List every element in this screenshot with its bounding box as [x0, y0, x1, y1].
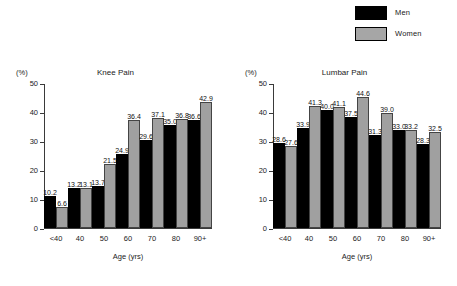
x-axis-line	[273, 228, 441, 229]
bar-women: 39.0	[381, 113, 393, 228]
y-tick	[269, 113, 273, 114]
bar-value-label: 28.3	[416, 137, 430, 144]
y-tick-label: 50	[245, 79, 267, 88]
legend-swatch-men	[355, 6, 387, 20]
y-tick	[269, 171, 273, 172]
bar-women: 36.8	[176, 119, 188, 228]
bar-value-label: 44.6	[356, 90, 370, 97]
bar-value-label: 13.7	[91, 179, 105, 186]
x-tick-label: 60	[345, 234, 369, 243]
chart-title-lumbar-pain: Lumbar Pain	[237, 68, 452, 77]
y-tick-label: 0	[245, 224, 267, 233]
x-tick-label: 60	[116, 234, 140, 243]
x-tick-label: 50	[321, 234, 345, 243]
bar-women: 41.3	[309, 106, 321, 228]
bar-value-label: 32.5	[428, 125, 442, 132]
y-tick-label: 50	[16, 79, 38, 88]
bar-women: 33.2	[405, 130, 417, 228]
x-tick-labels-lumbar-pain: <40405060708090+	[273, 234, 441, 243]
bar-group: 31.339.0	[369, 84, 393, 228]
x-tick-label: 80	[164, 234, 188, 243]
y-tick-label: 20	[245, 166, 267, 175]
bar-women: 13.1	[80, 188, 92, 228]
legend-swatch-women	[355, 27, 387, 41]
x-tick-label: 70	[140, 234, 164, 243]
x-tick-label: <40	[273, 234, 297, 243]
bar-value-label: 29.6	[139, 133, 153, 140]
x-tick-label: 50	[92, 234, 116, 243]
bar-value-label: 42.9	[199, 95, 213, 102]
bar-value-label: 27.6	[284, 139, 298, 146]
bar-men: 28.6	[273, 143, 285, 228]
bar-women: 27.6	[285, 146, 297, 228]
bar-women: 41.1	[333, 107, 345, 228]
y-tick	[40, 113, 44, 114]
bar-groups-lumbar-pain: 28.627.633.941.340.041.137.544.631.339.0…	[273, 84, 441, 228]
bar-group: 24.936.4	[116, 84, 140, 228]
bar-group: 13.213.1	[68, 84, 92, 228]
bar-men: 40.0	[321, 110, 333, 228]
bar-women: 6.6	[56, 207, 68, 228]
bar-group: 10.26.6	[44, 84, 68, 228]
bar-group: 40.041.1	[321, 84, 345, 228]
bar-value-label: 36.6	[187, 113, 201, 120]
plot-area-knee-pain: 10.26.613.213.113.721.524.936.429.637.13…	[44, 84, 212, 229]
bar-group: 33.033.2	[393, 84, 417, 228]
bar-women: 36.4	[128, 120, 140, 228]
bar-men: 36.6	[188, 120, 200, 228]
bar-value-label: 41.1	[332, 100, 346, 107]
y-tick-label: 10	[245, 195, 267, 204]
legend-label-men: Men	[395, 8, 410, 17]
bar-group: 33.941.3	[297, 84, 321, 228]
y-tick	[40, 142, 44, 143]
bar-value-label: 6.6	[57, 200, 67, 207]
x-tick-label: <40	[44, 234, 68, 243]
bar-value-label: 37.5	[344, 110, 358, 117]
x-tick-label: 40	[68, 234, 92, 243]
y-tick-label: 10	[16, 195, 38, 204]
y-tick	[40, 84, 44, 85]
x-axis-title-knee: Age (yrs)	[44, 252, 212, 261]
legend-label-women: Women	[395, 29, 422, 38]
plot-area-lumbar-pain: 28.627.633.941.340.041.137.544.631.339.0…	[273, 84, 441, 229]
bar-value-label: 21.5	[103, 157, 117, 164]
bar-group: 13.721.5	[92, 84, 116, 228]
bar-group: 29.637.1	[140, 84, 164, 228]
y-tick-label: 40	[16, 108, 38, 117]
bar-value-label: 10.2	[43, 189, 57, 196]
bar-group: 36.642.9	[188, 84, 212, 228]
bar-men: 33.0	[393, 130, 405, 228]
bar-value-label: 33.2	[404, 123, 418, 130]
bar-men: 31.3	[369, 135, 381, 228]
y-tick	[269, 142, 273, 143]
bar-women: 21.5	[104, 164, 116, 228]
x-axis-line	[44, 228, 212, 229]
bar-men: 37.5	[345, 117, 357, 228]
bar-value-label: 33.9	[296, 121, 310, 128]
bar-value-label: 36.4	[127, 113, 141, 120]
x-tick-label: 90+	[188, 234, 212, 243]
legend-item-men: Men	[355, 6, 451, 19]
bar-groups-knee-pain: 10.26.613.213.113.721.524.936.429.637.13…	[44, 84, 212, 228]
bar-women: 32.5	[429, 132, 441, 228]
y-tick-label: 30	[16, 137, 38, 146]
bar-men: 33.9	[297, 128, 309, 228]
bar-value-label: 39.0	[380, 106, 394, 113]
bar-women: 42.9	[200, 102, 212, 228]
bar-men: 35.0	[164, 125, 176, 229]
bar-men: 28.3	[417, 144, 429, 228]
y-tick-label: 40	[245, 108, 267, 117]
y-tick	[269, 84, 273, 85]
bar-women: 44.6	[357, 97, 369, 228]
y-tick-label: 20	[16, 166, 38, 175]
chart-panel-lumbar-pain: (%) Lumbar Pain 28.627.633.941.340.041.1…	[237, 62, 452, 286]
x-tick-label: 80	[393, 234, 417, 243]
bar-value-label: 31.3	[368, 128, 382, 135]
bar-value-label: 24.9	[115, 147, 129, 154]
legend-item-women: Women	[355, 27, 451, 40]
bar-women: 37.1	[152, 118, 164, 228]
chart-legend: Men Women	[355, 6, 451, 48]
y-tick	[40, 229, 44, 230]
y-tick	[269, 200, 273, 201]
y-tick	[40, 200, 44, 201]
